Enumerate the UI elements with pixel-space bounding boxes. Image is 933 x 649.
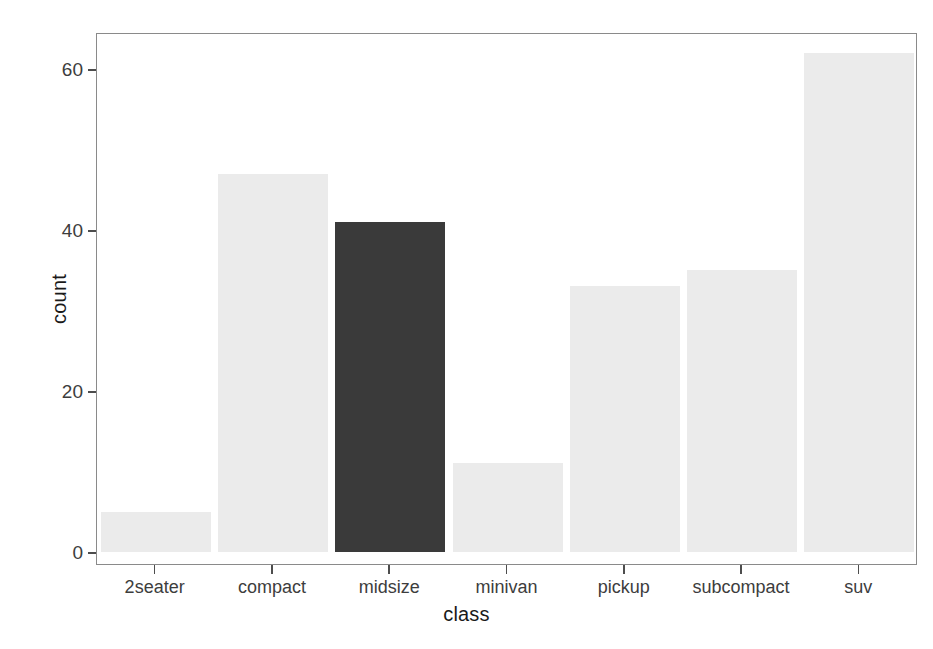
x-tick-label: midsize (359, 577, 420, 598)
y-tick-label: 60 (62, 58, 83, 82)
bar-2seater (101, 512, 211, 552)
plot-panel (96, 33, 917, 565)
bar-compact (218, 174, 328, 552)
x-tick-label: minivan (475, 577, 537, 598)
x-tick-label: suv (844, 577, 872, 598)
bar-chart-figure: 0204060 count 2seatercompactmidsizeminiv… (0, 0, 933, 649)
y-tick-mark (88, 552, 96, 554)
y-tick-mark (88, 391, 96, 393)
x-tick-mark (623, 565, 625, 574)
bar-midsize (335, 222, 445, 552)
x-axis-title: class (0, 603, 933, 626)
bar-minivan (453, 463, 563, 552)
x-tick-label: compact (238, 577, 306, 598)
x-tick-mark (388, 565, 390, 574)
x-tick-label: 2seater (125, 577, 185, 598)
y-tick-mark (88, 230, 96, 232)
y-tick-label: 0 (72, 541, 83, 565)
x-tick-mark (506, 565, 508, 574)
y-tick-mark (88, 69, 96, 71)
x-tick-mark (271, 565, 273, 574)
x-tick-mark (858, 565, 860, 574)
bar-suv (804, 53, 914, 552)
x-tick-mark (154, 565, 156, 574)
y-tick-label: 20 (62, 380, 83, 404)
bar-series (97, 34, 916, 564)
x-tick-label: subcompact (693, 577, 790, 598)
y-axis-title: count (48, 239, 71, 359)
x-tick-label: pickup (598, 577, 650, 598)
bar-pickup (570, 286, 680, 552)
x-tick-mark (740, 565, 742, 574)
bar-subcompact (687, 270, 797, 552)
